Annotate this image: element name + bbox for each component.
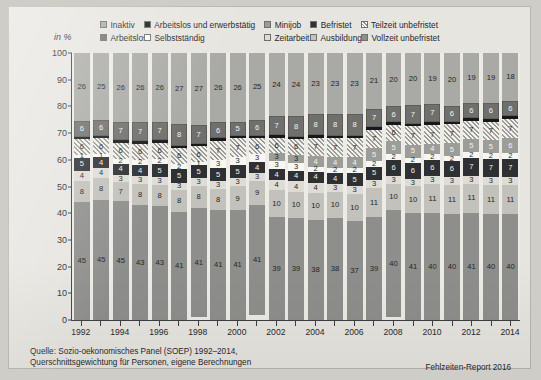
segment-value-label: 5 — [372, 169, 376, 177]
bar-column-2011: 206752631140 — [442, 53, 461, 320]
segment-value-label: 26 — [116, 84, 124, 92]
stacked-bar: 2566144845 — [93, 53, 109, 320]
segment-zeitarbeit: 4 — [74, 171, 90, 181]
x-axis-label: 2014 — [500, 327, 520, 337]
segment-value-label: 4 — [80, 172, 84, 180]
segment-teilzeit: 6 — [386, 125, 402, 141]
segment-minijob: 5 — [463, 139, 479, 152]
segment-value-label: 40 — [448, 263, 456, 271]
legend-label: Selbstständig — [155, 34, 205, 42]
segment-value-label: 3 — [463, 176, 479, 184]
y-axis-tick-label: 100 — [52, 48, 67, 58]
segment-vollzeit: 41 — [230, 210, 246, 319]
segment-value-label: 6 — [391, 164, 395, 172]
x-axis-tick — [149, 321, 169, 326]
legend-item-minijob: Minijob — [264, 20, 301, 28]
legend-row-1: InaktivArbeitslos und erwerbstätigMinijo… — [100, 18, 530, 31]
x-axis-label: 1992 — [71, 327, 91, 337]
segment-vollzeit: 41 — [171, 212, 187, 320]
segment-arbeitslos: 6 — [502, 101, 518, 117]
segment-value-label: 6 — [119, 147, 123, 155]
segment-teilzeit: 7 — [230, 138, 246, 157]
segment-value-label: 6 — [80, 143, 84, 151]
segment-value-label: 6 — [177, 152, 181, 160]
segment-value-label: 6 — [197, 151, 201, 159]
segment-value-label: 8 — [138, 191, 142, 199]
segment-value-label: 4 — [274, 181, 278, 189]
segment-befristet: 6 — [424, 160, 440, 176]
segment-value-label: 6 — [99, 124, 103, 132]
stacked-bar: 217752531139 — [366, 53, 382, 320]
stacked-bar: 248633441039 — [288, 53, 304, 320]
segment-value-label: 41 — [175, 262, 183, 270]
x-axis-label — [325, 327, 345, 337]
segment-minijob: 6 — [502, 138, 518, 154]
segment-ausbildung: 8 — [171, 190, 187, 211]
stacked-bar: 238742431038 — [327, 53, 343, 320]
segment-value-label: 5 — [197, 168, 201, 176]
segment-value-label: 3 — [249, 173, 265, 181]
inaktiv-swatch-icon — [100, 21, 107, 28]
segment-ausbildung: 10 — [288, 192, 304, 218]
segment-value-label: 5 — [489, 143, 493, 151]
bar-column-1996: 2676253843 — [150, 53, 169, 320]
x-axis-label — [247, 327, 267, 337]
segment-ausbildung: 8 — [210, 189, 226, 210]
y-axis-tick-label: 60 — [57, 155, 67, 165]
segment-befristet: 4 — [249, 162, 265, 173]
segment-value-label: 3 — [269, 162, 285, 170]
segment-befristet: 5 — [347, 173, 363, 186]
segment-selbst: 3 — [230, 157, 246, 165]
legend-label: Arbeitslos — [111, 34, 148, 42]
segment-value-label: 39 — [292, 265, 300, 273]
segment-arbeitslos: 6 — [463, 103, 479, 119]
segment-zeitarbeit: 3 — [386, 176, 402, 184]
segment-value-label: 23 — [311, 80, 319, 88]
segment-vollzeit: 38 — [308, 220, 324, 320]
x-axis: 1992199419961998200020022004200620082010… — [71, 321, 520, 343]
legend-item-selbst: Selbstständig — [144, 33, 205, 41]
segment-ausbildung: 8 — [152, 185, 168, 206]
chart-screenshot: InaktivArbeitslos und erwerbstätigMinijo… — [0, 0, 541, 380]
x-axis-tick — [188, 321, 208, 326]
bar-column-2003: 248633441039 — [286, 53, 305, 320]
segment-value-label: 3 — [288, 155, 304, 163]
segment-ausbildung: 9 — [230, 186, 246, 210]
bar-column-2002: 247633441039 — [267, 53, 286, 320]
segment-value-label: 7 — [411, 111, 415, 119]
segment-arbeitslos: 8 — [347, 114, 363, 135]
plot-area: 0102030405060708090100 26661548452566144… — [71, 53, 520, 321]
segment-value-label: 27 — [175, 85, 183, 93]
segment-befristet: 5 — [230, 165, 246, 178]
stacked-bar: 186762731140 — [502, 53, 518, 320]
segment-ausbildung: 10 — [269, 190, 285, 216]
segment-inaktiv: 25 — [93, 53, 109, 120]
segment-vollzeit: 41 — [210, 210, 226, 319]
segment-minijob: 4 — [308, 156, 324, 167]
segment-value-label: 20 — [409, 75, 417, 83]
segment-value-label: 6 — [450, 165, 454, 173]
x-axis-label: 1998 — [188, 327, 208, 337]
segment-vollzeit: 39 — [366, 217, 382, 320]
segment-value-label: 4 — [313, 184, 317, 192]
bar-column-1999: 2667353841 — [208, 53, 227, 320]
segment-ausbildung: 8 — [132, 184, 148, 205]
segment-zeitarbeit: 3 — [132, 176, 148, 184]
aue-swatch-icon — [144, 21, 151, 28]
stacked-bar: 206652631040 — [386, 53, 402, 320]
segment-value-label: 40 — [428, 263, 436, 271]
segment-value-label: 26 — [155, 84, 163, 92]
segment-value-label: 41 — [467, 263, 475, 271]
segment-value-label: 7 — [508, 164, 512, 172]
segment-value-label: 5 — [391, 144, 395, 152]
segment-vollzeit: 41 — [463, 213, 479, 320]
x-axis-label: 2012 — [461, 327, 481, 337]
segment-value-label: 7 — [489, 164, 493, 172]
x-axis-tick — [91, 321, 111, 326]
segment-value-label: 3 — [113, 175, 129, 183]
segment-value-label: 4 — [333, 175, 337, 183]
segment-value-label: 5 — [372, 151, 376, 159]
x-axis-tick — [130, 321, 150, 326]
segment-arbeitslos: 8 — [171, 124, 187, 145]
segment-ausbildung: 11 — [483, 185, 499, 214]
